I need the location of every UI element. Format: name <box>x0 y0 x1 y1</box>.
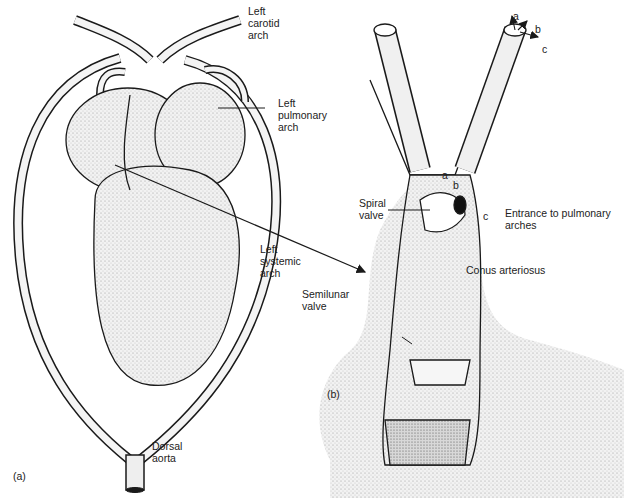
label-left-pulmonary-arch: Left pulmonary arch <box>278 97 327 133</box>
label-spiral-valve: Spiral valve <box>359 197 386 221</box>
label-left-carotid-arch: Left carotid arch <box>248 5 280 41</box>
heart-diagram-artwork <box>0 0 624 498</box>
inner-letter-b: b <box>453 179 459 191</box>
panel-a-tag: (a) <box>13 470 26 482</box>
label-entrance-to-pulmonary-arches: Entrance to pulmonary arches <box>505 207 611 231</box>
flow-letter-c: c <box>542 43 547 55</box>
label-conus-arteriosus: Conus arteriosus <box>466 264 545 276</box>
inner-letter-c: c <box>483 210 488 222</box>
inner-letter-a: a <box>442 169 448 181</box>
flow-letter-a: a <box>513 10 519 22</box>
label-left-systemic-arch: Left systemic arch <box>260 243 301 279</box>
flow-letter-b: b <box>535 23 541 35</box>
label-dorsal-aorta: Dorsal aorta <box>152 440 182 464</box>
label-semilunar-valve: Semilunar valve <box>302 288 349 312</box>
conus-arteriosus <box>319 24 624 498</box>
heart <box>66 83 245 385</box>
panel-b-tag: (b) <box>327 388 340 400</box>
